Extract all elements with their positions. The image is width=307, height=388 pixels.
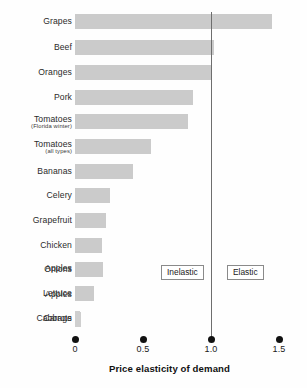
bar-carrots — [75, 312, 81, 327]
category-label: Pork — [0, 93, 72, 102]
bar-row: Chicken — [0, 238, 307, 253]
plot-area: Grapes Beef Oranges Pork Tomatoes — [0, 0, 307, 388]
category-label-text: Tomatoes — [34, 138, 72, 148]
bar-row: Lettuce — [0, 286, 307, 301]
category-label-text: Lettuce — [43, 288, 72, 298]
category-label: Celery — [0, 191, 72, 200]
category-label: Apples — [0, 264, 72, 273]
bar-celery — [75, 188, 110, 203]
category-label: Lettuce — [0, 289, 72, 298]
bar-chicken — [75, 238, 102, 253]
category-label: Tomatoes (Florida winter) — [0, 114, 72, 129]
bar-row: Bananas — [0, 164, 307, 179]
category-label-text: Apples — [45, 263, 72, 273]
category-label: Grapes — [0, 17, 72, 26]
bar-apples — [75, 262, 103, 277]
elastic-zone-label: Elastic — [227, 265, 264, 280]
bar-row: Oranges — [0, 65, 307, 80]
category-label: Beef — [0, 43, 72, 52]
category-label: Tomatoes (all types) — [0, 139, 72, 154]
category-sublabel-text: (all types) — [0, 148, 72, 154]
bar-bananas — [75, 164, 133, 179]
bar-tomatoes-florida-winter — [75, 114, 188, 129]
category-label-text: Carrots — [43, 313, 72, 323]
x-tick-dot-2 — [208, 336, 215, 343]
bar-oranges — [75, 65, 211, 80]
category-sublabel-text: (Florida winter) — [0, 123, 72, 129]
x-tick-dot-1 — [140, 336, 147, 343]
bar-row: Pork — [0, 90, 307, 105]
inelastic-zone-label: Inelastic — [161, 265, 204, 280]
category-label: Bananas — [0, 167, 72, 176]
bar-row: Carrots — [0, 312, 307, 327]
bar-beef — [75, 40, 214, 55]
price-elasticity-bar-chart: Grapes Beef Oranges Pork Tomatoes — [0, 0, 307, 388]
x-axis-title: Price elasticity of demand — [0, 363, 307, 374]
bar-lettuce — [75, 286, 94, 301]
x-axis: 0 0.5 1.0 1.5 — [0, 335, 307, 349]
x-tick-label-1: 0.5 — [136, 344, 149, 354]
bar-row: Grapes — [0, 14, 307, 29]
bar-row: Grapefruit — [0, 213, 307, 228]
bar-tomatoes-all-types — [75, 139, 151, 154]
category-label-text: Grapefruit — [33, 215, 72, 225]
bar-row: Beef — [0, 40, 307, 55]
x-tick-label-3: 1.5 — [272, 344, 285, 354]
category-label: Chicken — [0, 241, 72, 250]
category-label-text: Pork — [54, 92, 72, 102]
category-label: Oranges — [0, 68, 72, 77]
bar-row: Celery — [0, 188, 307, 203]
unit-elasticity-reference-line — [211, 12, 212, 339]
category-label: Carrots — [0, 314, 72, 323]
category-label-text: Grapes — [43, 16, 72, 26]
category-label-text: Oranges — [38, 67, 72, 77]
bar-row: Tomatoes (Florida winter) — [0, 114, 307, 129]
category-label-text: Chicken — [40, 240, 72, 250]
category-label-text: Bananas — [37, 166, 72, 176]
x-tick-label-0: 0 — [72, 344, 77, 354]
bar-grapefruit — [75, 213, 106, 228]
x-tick-dot-0 — [72, 336, 79, 343]
category-label-text: Beef — [54, 42, 72, 52]
category-label-text: Tomatoes — [34, 113, 72, 123]
x-tick-label-2: 1.0 — [204, 344, 217, 354]
category-label: Grapefruit — [0, 216, 72, 225]
bar-pork — [75, 90, 193, 105]
bar-row: Tomatoes (all types) — [0, 139, 307, 154]
category-label-text: Celery — [47, 190, 72, 200]
bar-grapes — [75, 14, 272, 29]
x-tick-dot-3 — [276, 336, 283, 343]
